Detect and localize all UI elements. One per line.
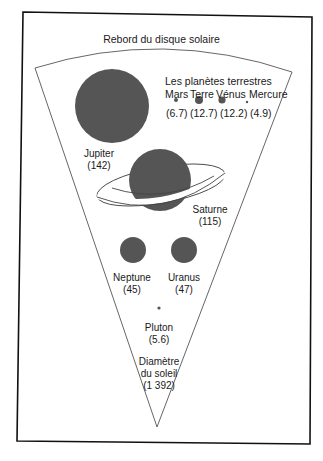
diagram-title: Rebord du disque solaire	[0, 33, 323, 45]
mercure-dot	[246, 101, 248, 103]
jupiter-label: Jupiter (142)	[74, 148, 124, 172]
neptune-diameter: (45)	[107, 284, 157, 296]
saturne-diameter: (115)	[185, 216, 235, 228]
terrestrial-heading: Les planètes terrestres	[165, 75, 272, 87]
pluton-dot	[157, 306, 160, 309]
jupiter-disc	[75, 69, 149, 143]
uranus-label: Uranus (47)	[159, 272, 209, 296]
uranus-name: Uranus	[159, 272, 209, 284]
saturne-name: Saturne	[185, 204, 235, 216]
jupiter-name: Jupiter	[74, 148, 124, 160]
neptune-disc	[120, 237, 146, 263]
neptune-name: Neptune	[107, 272, 157, 284]
sun-diameter-label: Diamètre du soleil (1 392)	[131, 356, 187, 392]
pluton-name: Pluton	[134, 322, 184, 334]
pluton-diameter: (5.6)	[134, 334, 184, 346]
pluton-label: Pluton (5.6)	[134, 322, 184, 346]
mercure-label: Mercure	[249, 88, 288, 100]
mars-diameter: (6.7)	[166, 107, 188, 119]
uranus-diameter: (47)	[159, 284, 209, 296]
sun-label-line1: Diamètre	[131, 356, 187, 368]
neptune-label: Neptune (45)	[107, 272, 157, 296]
mercure-diameter: (4.9)	[250, 107, 272, 119]
terre-label: Terre	[190, 88, 214, 100]
venus-diameter: (12.2)	[220, 107, 247, 119]
jupiter-diameter: (142)	[74, 160, 124, 172]
terre-diameter: (12.7)	[190, 107, 217, 119]
sun-diameter: (1 392)	[131, 380, 187, 392]
saturne-label: Saturne (115)	[185, 204, 235, 228]
mars-label: Mars	[165, 88, 188, 100]
sun-label-line2: du soleil	[131, 368, 187, 380]
uranus-disc	[171, 237, 197, 263]
venus-label: Vénus	[216, 88, 246, 100]
